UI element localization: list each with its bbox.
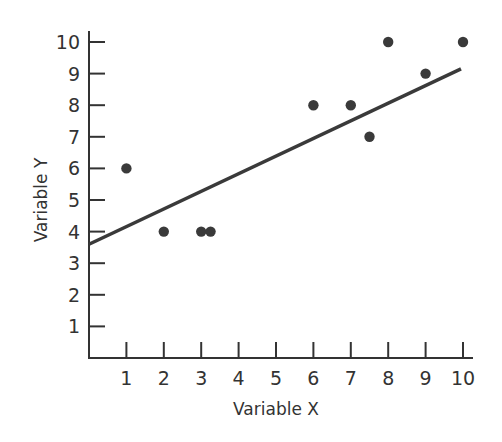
- x-tick-label: 10: [451, 367, 475, 389]
- y-tick-label: 7: [68, 126, 80, 148]
- x-tick-label: 8: [382, 367, 394, 389]
- data-point: [458, 37, 468, 47]
- y-tick-label: 1: [68, 315, 80, 337]
- regression-line-path: [89, 69, 461, 244]
- y-tick-label: 8: [68, 94, 80, 116]
- y-tick-label: 5: [68, 189, 80, 211]
- x-tick-label: 7: [345, 367, 357, 389]
- data-point: [159, 226, 169, 236]
- scatter-chart: 12345678910 12345678910 Variable X Varia…: [0, 0, 502, 442]
- data-point: [383, 37, 393, 47]
- regression-line: [89, 69, 461, 244]
- x-axis-ticks: 12345678910: [120, 342, 475, 389]
- x-tick-label: 4: [233, 367, 245, 389]
- data-point: [364, 132, 374, 142]
- y-tick-label: 2: [68, 284, 80, 306]
- x-tick-label: 5: [270, 367, 282, 389]
- x-axis-title: Variable X: [233, 399, 319, 419]
- data-point: [420, 68, 430, 78]
- y-tick-label: 3: [68, 252, 80, 274]
- x-tick-label: 9: [420, 367, 432, 389]
- y-axis-title: Variable Y: [31, 157, 51, 242]
- x-tick-label: 6: [307, 367, 319, 389]
- y-tick-label: 4: [68, 221, 80, 243]
- data-points: [121, 37, 468, 237]
- y-tick-label: 6: [68, 157, 80, 179]
- x-tick-label: 3: [195, 367, 207, 389]
- y-tick-label: 9: [68, 63, 80, 85]
- data-point: [196, 226, 206, 236]
- y-axis-ticks: 12345678910: [56, 31, 105, 337]
- y-tick-label: 10: [56, 31, 80, 53]
- x-tick-label: 1: [120, 367, 132, 389]
- data-point: [205, 226, 215, 236]
- x-tick-label: 2: [158, 367, 170, 389]
- data-point: [121, 163, 131, 173]
- data-point: [346, 100, 356, 110]
- data-point: [308, 100, 318, 110]
